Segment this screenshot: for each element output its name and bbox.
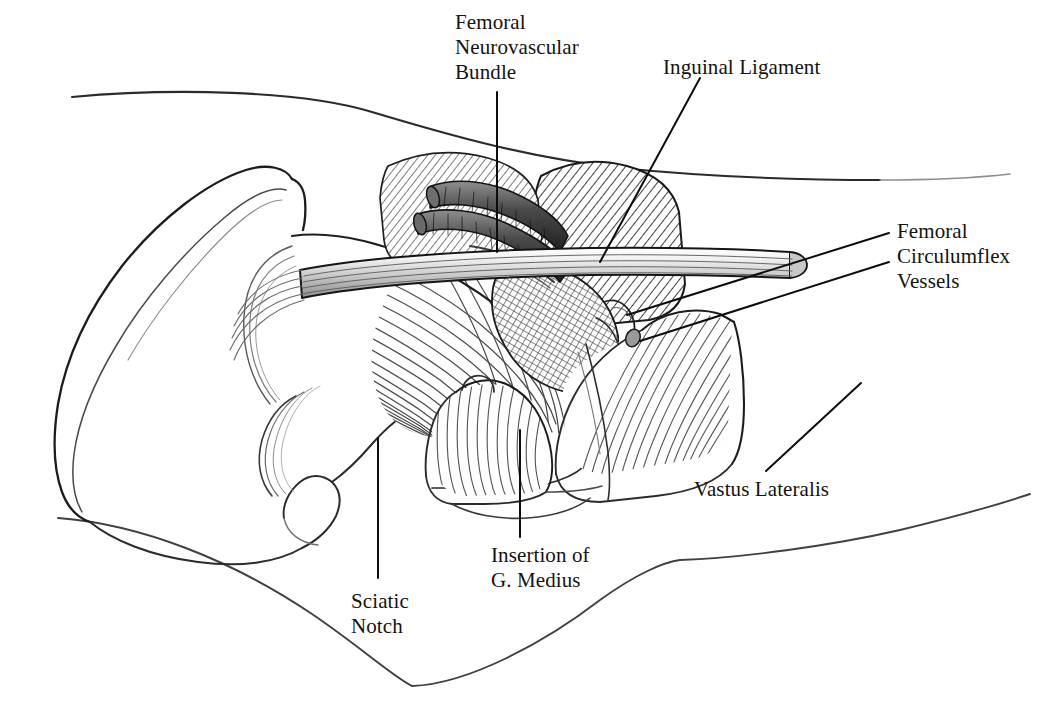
label-insertion-of-g-medius: Insertion of G. Medius [491,543,590,593]
label-femoral-neurovascular-bundle: Femoral Neurovascular Bundle [455,10,579,85]
label-vastus-lateralis: Vastus Lateralis [694,477,829,502]
leader-vastus-lateralis [766,383,861,471]
label-femoral-circumflex-vessels: Femoral Circulumflex Vessels [897,219,1010,294]
label-inguinal-ligament: Inguinal Ligament [663,55,820,80]
body-contour-upper [72,92,1010,180]
anatomy-figure: Femoral Neurovascular Bundle Inguinal Li… [0,0,1037,703]
anatomy-illustration [0,0,1037,703]
label-sciatic-notch: Sciatic Notch [351,589,409,639]
